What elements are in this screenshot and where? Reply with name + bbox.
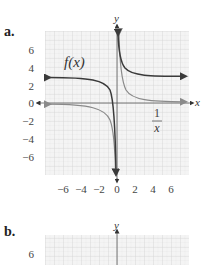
y-tick: 2 bbox=[29, 80, 35, 92]
y-axis-label-b: y bbox=[113, 219, 119, 231]
y-axis-label: y bbox=[113, 12, 119, 24]
y-tick: −6 bbox=[22, 151, 34, 163]
one-over-x-numerator: 1 bbox=[154, 106, 160, 120]
x-tick: −2 bbox=[93, 183, 105, 195]
y-tick: 4 bbox=[29, 62, 35, 74]
y-tick: −2 bbox=[22, 115, 34, 127]
chart-b: y 6 bbox=[29, 219, 190, 265]
x-axis-label: x bbox=[194, 96, 200, 108]
x-tick: 4 bbox=[150, 183, 156, 195]
x-tick: −6 bbox=[57, 183, 69, 195]
y-tick: 0 bbox=[29, 97, 35, 109]
chart-svg: x y 6 4 2 0 −2 −4 −6 −6 −4 −2 0 2 4 6 f(… bbox=[0, 0, 222, 265]
x-tick: −4 bbox=[75, 183, 87, 195]
f-label: f(x) bbox=[64, 54, 85, 71]
y-tick: 6 bbox=[29, 44, 35, 56]
x-tick: 6 bbox=[168, 183, 174, 195]
x-tick: 0 bbox=[114, 183, 120, 195]
chart-a: x y 6 4 2 0 −2 −4 −6 −6 −4 −2 0 2 4 6 f(… bbox=[22, 12, 200, 195]
x-tick: 2 bbox=[132, 183, 138, 195]
one-over-x-denominator: x bbox=[153, 121, 160, 135]
y-tick: −4 bbox=[22, 133, 34, 145]
y-tick-b: 6 bbox=[29, 248, 35, 260]
